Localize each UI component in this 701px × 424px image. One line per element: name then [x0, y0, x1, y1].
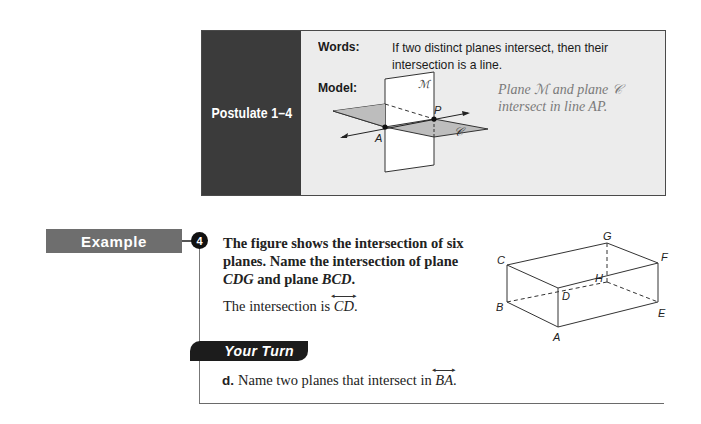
example-answer: The intersection is ◂CD▸. [223, 298, 358, 315]
your-turn-tag: Your Turn [190, 341, 308, 361]
caption-line-2: intersect in line AP. [498, 98, 622, 115]
svg-text:F: F [661, 251, 669, 263]
svg-text:C: C [497, 254, 505, 266]
example-question: The figure shows the intersection of six… [223, 234, 473, 288]
section-bottom-rule [199, 403, 664, 404]
caption-line-1: Plane ℳ and plane 𝒞 [498, 81, 622, 98]
svg-text:A: A [374, 132, 382, 144]
svg-text:B: B [496, 301, 503, 313]
svg-text:D: D [562, 290, 570, 302]
example-tag-label: Example [81, 233, 147, 250]
your-turn-label: Your Turn [224, 343, 294, 359]
postulate-sidebar: Postulate 1–4 [202, 31, 301, 195]
postulate-box: Postulate 1–4 Words: If two distinct pla… [201, 30, 666, 196]
svg-text:A: A [552, 331, 560, 343]
line-cd-notation: ◂CD▸ [334, 298, 354, 315]
svg-text:H: H [595, 272, 603, 284]
model-caption: Plane ℳ and plane 𝒞 intersect in line AP… [498, 81, 622, 115]
example-tag: Example [46, 229, 182, 253]
your-turn-item-d: d.Name two planes that intersect in ◂BA▸… [222, 372, 457, 389]
svg-text:ℳ: ℳ [418, 78, 432, 91]
svg-text:G: G [603, 232, 612, 242]
line-ba-notation: ◂BA▸ [435, 372, 453, 389]
svg-text:P: P [434, 104, 442, 116]
rectangular-prism-figure: G F C H D B E A [478, 232, 693, 344]
words-label: Words: [318, 39, 360, 54]
postulate-title: Postulate 1–4 [211, 105, 292, 121]
svg-text:E: E [658, 307, 666, 319]
example-vertical-rule [199, 248, 200, 403]
intersecting-planes-figure: A P ℳ 𝒞 [330, 71, 500, 196]
words-text: If two distinct planes intersect, then t… [392, 39, 662, 73]
item-letter: d. [222, 373, 234, 388]
example-number-badge: 4 [191, 232, 208, 249]
